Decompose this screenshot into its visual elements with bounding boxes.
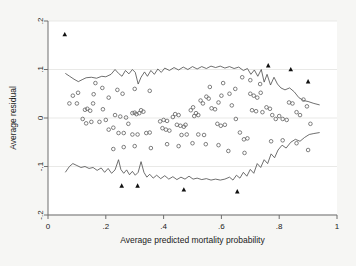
y-tick-label: 0	[36, 115, 45, 120]
chart-figure: 0.2.4.6.81 -.2-.10.1.2 Average predicted…	[0, 0, 356, 266]
scatter-plot: 0.2.4.6.81 -.2-.10.1.2 Average predicted…	[0, 0, 356, 266]
x-tick-label: .8	[276, 222, 283, 231]
x-tick-label: 1	[335, 222, 340, 231]
x-axis-title: Average predicted mortality probability	[120, 235, 265, 245]
y-axis-ticks: -.2-.10.1.2	[36, 17, 48, 220]
x-tick-label: 0	[46, 222, 51, 231]
x-tick-label: .4	[160, 222, 167, 231]
x-tick-label: .2	[102, 222, 109, 231]
x-axis-ticks: 0.2.4.6.81	[46, 215, 340, 231]
y-axis-title: Average residual	[8, 86, 18, 150]
y-tick-label: -.2	[36, 210, 45, 220]
y-tick-label: -.1	[36, 161, 45, 171]
x-tick-label: .6	[218, 222, 225, 231]
y-tick-label: .1	[36, 66, 45, 73]
y-tick-label: .2	[36, 17, 45, 24]
